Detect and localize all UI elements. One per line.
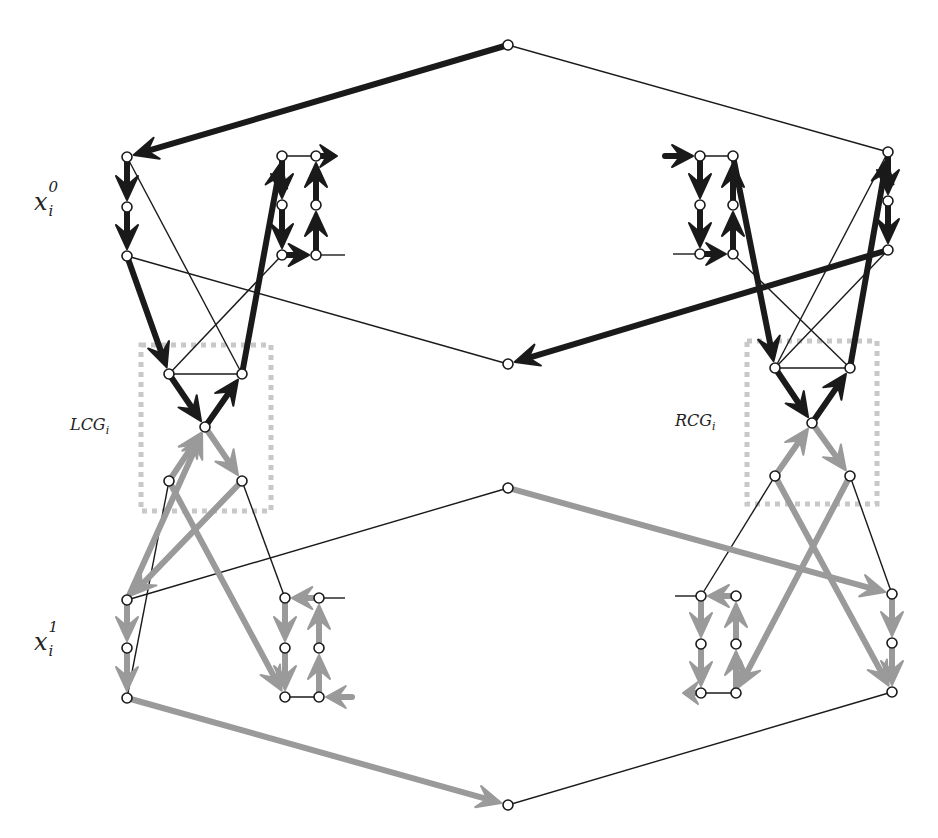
node-L_b0 <box>277 151 287 161</box>
thin-edges <box>127 45 892 805</box>
node-L_d1 <box>122 643 132 653</box>
node-L_e1 <box>280 643 290 653</box>
node-L_a0 <box>122 152 132 162</box>
label-base: x <box>34 188 48 216</box>
label-sup: 0 <box>49 178 59 196</box>
node-top <box>503 40 513 50</box>
thin-edge <box>127 157 242 374</box>
node-R_a1 <box>695 200 705 210</box>
arrow-shaft <box>205 392 230 427</box>
node-R_c1 <box>883 196 893 206</box>
node-L_g_tl <box>164 369 174 379</box>
node-R_g_tl <box>770 363 780 373</box>
label-sub: i <box>712 420 716 433</box>
node-R_e0 <box>731 591 741 601</box>
graph-nodes <box>122 40 897 810</box>
arrowhead-icon <box>785 429 808 455</box>
node-R_c2 <box>883 245 893 255</box>
arrow-shaft <box>169 481 275 678</box>
node-L_c0 <box>311 151 321 161</box>
gray-arrows <box>116 423 903 807</box>
node-L_g_tr <box>237 369 247 379</box>
label-sub: i <box>106 424 110 437</box>
node-L_g_bl <box>164 476 174 486</box>
node-R_g_bl <box>770 471 780 481</box>
arrowhead-icon <box>823 444 846 470</box>
node-R_g_tr <box>845 363 855 373</box>
arrow-shaft <box>127 698 487 799</box>
node-L_f1 <box>314 643 324 653</box>
arrow-shaft <box>775 368 800 405</box>
node-L_g_c <box>200 422 210 432</box>
rcg-label: RCGi <box>675 411 716 433</box>
node-R_c0 <box>883 147 893 157</box>
label-base: x <box>34 628 48 656</box>
arrow-shaft <box>812 386 838 423</box>
lcg-label: LCGi <box>70 415 109 437</box>
node-L_b1 <box>277 200 287 210</box>
node-R_d2 <box>696 688 706 698</box>
arrowhead-icon <box>215 380 238 406</box>
node-R_a0 <box>695 151 705 161</box>
label-sub: i <box>49 642 54 660</box>
node-L_f0 <box>314 593 324 603</box>
node-L_d2 <box>122 693 132 703</box>
node-R_g_c <box>807 418 817 428</box>
node-L_e0 <box>280 593 290 603</box>
node-R_f0 <box>887 589 897 599</box>
label-sup: 1 <box>49 618 59 636</box>
arrowhead-icon <box>786 391 809 417</box>
node-R_g_br <box>845 471 855 481</box>
node-R_b1 <box>728 200 738 210</box>
variable-label-x-i-0: x0i <box>34 188 62 216</box>
arrow-shaft <box>205 427 230 463</box>
node-L_c2 <box>311 250 321 260</box>
node-L_g_br <box>237 476 247 486</box>
thin-edge <box>127 256 508 364</box>
thin-edge <box>508 45 888 152</box>
node-R_f2 <box>887 687 897 697</box>
variable-label-x-i-1: x1i <box>34 628 62 656</box>
thin-edge <box>508 692 892 805</box>
arrow-shaft <box>169 374 193 409</box>
thin-edge <box>242 481 285 598</box>
node-L_e2 <box>280 692 290 702</box>
thin-edge <box>850 476 892 594</box>
label-base: LCG <box>70 415 106 434</box>
node-L_f2 <box>314 692 324 702</box>
arrow-shaft <box>242 177 278 374</box>
node-R_b2 <box>728 249 738 259</box>
node-bottom <box>503 800 513 810</box>
label-base: RCG <box>675 411 712 430</box>
label-sub: i <box>49 202 54 220</box>
arrow-shaft <box>127 256 162 354</box>
arrow-shaft <box>528 250 888 358</box>
arrowhead-icon <box>215 449 238 475</box>
node-mid_lower <box>503 483 513 493</box>
node-L_d0 <box>122 595 132 605</box>
node-R_e1 <box>731 639 741 649</box>
arrowhead-icon <box>823 374 846 400</box>
node-L_c1 <box>311 200 321 210</box>
node-R_e2 <box>731 688 741 698</box>
node-R_d1 <box>696 639 706 649</box>
node-R_f1 <box>887 638 897 648</box>
arrow-shaft <box>733 156 771 347</box>
node-L_b2 <box>277 250 287 260</box>
arrow-shaft <box>812 423 838 459</box>
arrowhead-icon <box>179 395 202 421</box>
reduction-gadget-diagram <box>0 0 938 838</box>
node-R_d0 <box>696 591 706 601</box>
node-L_a1 <box>122 202 132 212</box>
node-mid_upper <box>503 359 513 369</box>
node-R_b0 <box>728 151 738 161</box>
arrow-shaft <box>148 45 508 151</box>
arrow-shaft <box>775 441 800 476</box>
node-R_a2 <box>695 249 705 259</box>
thin-edge <box>701 476 775 596</box>
node-L_a2 <box>122 251 132 261</box>
